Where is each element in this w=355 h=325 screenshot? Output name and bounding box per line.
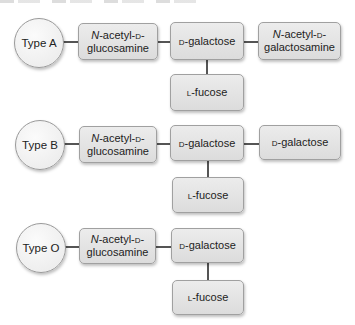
label-part: -fucose <box>191 86 227 98</box>
label-part: N <box>91 233 99 245</box>
l-fucose-box: l-fucose <box>172 177 244 213</box>
label-part: - <box>141 233 145 245</box>
type-o-circle: Type O <box>16 223 66 273</box>
connector <box>63 41 79 43</box>
label-part: -galactose <box>185 239 236 251</box>
n-acetyl-d-glucosamine-box: N-acetyl-d- glucosamine <box>79 228 156 264</box>
type-label: Type O <box>22 242 59 254</box>
l-fucose-box: l-fucose <box>170 74 244 111</box>
label-part: - <box>141 132 145 144</box>
n-acetyl-d-glucosamine-box: N-acetyl-d- glucosamine <box>78 23 158 60</box>
label-part: -fucose <box>192 291 228 303</box>
connector <box>243 41 259 43</box>
type-label: Type B <box>22 139 58 151</box>
label-part: galactosamine <box>264 41 335 53</box>
label-part: -acetyl- <box>281 28 317 40</box>
connector <box>207 161 209 177</box>
d-galactose-box: d-galactose <box>171 228 244 263</box>
connector <box>206 60 208 74</box>
n-acetyl-d-glucosamine-box: N-acetyl-d- glucosamine <box>79 126 157 163</box>
label-part: - <box>141 29 145 41</box>
d-galactose-box: d-galactose <box>170 125 244 161</box>
d-galactose-box: d-galactose <box>170 22 244 60</box>
cropped-caption <box>0 0 200 3</box>
label-part: -fucose <box>192 189 228 201</box>
type-a-circle: Type A <box>14 18 64 68</box>
connector <box>207 263 209 280</box>
label-part: N <box>273 28 281 40</box>
label-part: -galactose <box>278 136 329 148</box>
label-part: glucosamine <box>87 42 149 54</box>
connector <box>156 246 171 248</box>
connector <box>243 143 259 145</box>
label-part: -acetyl- <box>99 233 135 245</box>
connector <box>157 143 171 145</box>
label-part: -galactose <box>185 35 236 47</box>
label-part: glucosamine <box>87 246 149 258</box>
label-part: N <box>91 132 99 144</box>
type-b-circle: Type B <box>15 120 65 170</box>
label-part: N <box>91 29 99 41</box>
label-part: -acetyl- <box>99 132 135 144</box>
type-label: Type A <box>21 37 56 49</box>
d-galactose-terminal-box: d-galactose <box>259 125 341 160</box>
label-part: glucosamine <box>87 145 149 157</box>
connector <box>63 143 79 145</box>
connector <box>64 246 79 248</box>
label-part: -acetyl- <box>99 29 135 41</box>
connector <box>157 41 171 43</box>
label-part: -galactose <box>185 137 236 149</box>
l-fucose-box: l-fucose <box>172 280 244 315</box>
n-acetyl-d-galactosamine-box: N-acetyl-d- galactosamine <box>258 22 341 60</box>
label-part: - <box>323 28 327 40</box>
